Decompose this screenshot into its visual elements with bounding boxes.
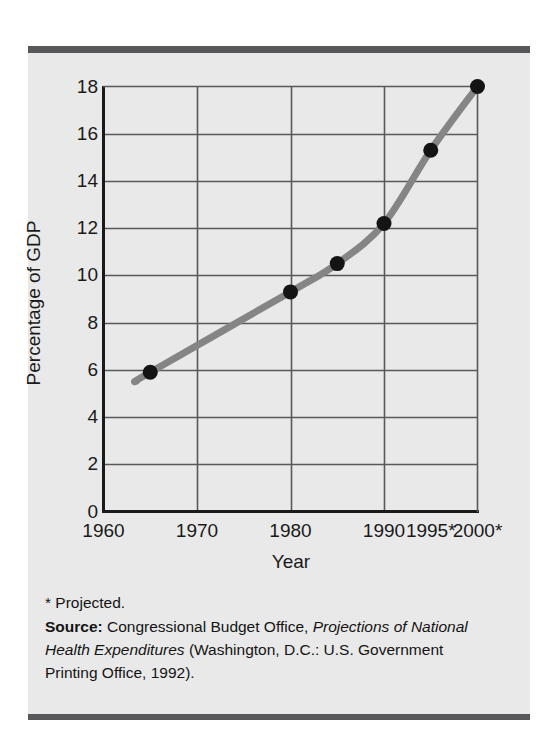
plot-area: 181614121086420 19601970198019901995*200… xyxy=(0,0,551,600)
y-tick-label-16: 16 xyxy=(54,124,98,143)
trend-line xyxy=(134,87,477,382)
y-tick-label-8: 8 xyxy=(54,313,98,332)
y-tick-label-12: 12 xyxy=(54,218,98,237)
data-series-group xyxy=(134,79,485,382)
caption-source-text-1: Congressional Budget Office, xyxy=(103,618,313,635)
x-tick-label-1980: 1980 xyxy=(269,521,311,540)
caption-source-label: Source: xyxy=(45,618,103,635)
data-point-1985 xyxy=(330,256,345,271)
x-tick-label-1995-projected: 1995* xyxy=(406,521,456,540)
data-point-1990 xyxy=(377,216,392,231)
caption-footnote: * Projected. xyxy=(45,592,475,615)
data-point-markers xyxy=(143,79,485,380)
bottom-rule-divider xyxy=(28,714,530,720)
data-point-1995 xyxy=(423,143,438,158)
x-tick-label-1990: 1990 xyxy=(363,521,405,540)
x-axis-tick-labels: 19601970198019901995*2000* xyxy=(0,521,551,551)
x-tick-label-2000-projected: 2000* xyxy=(453,521,503,540)
y-axis-title: Percentage of GDP xyxy=(23,203,45,403)
x-axis-title: Year xyxy=(103,551,479,573)
figure-container: 181614121086420 19601970198019901995*200… xyxy=(0,0,551,739)
y-tick-label-6: 6 xyxy=(54,360,98,379)
horizontal-gridlines xyxy=(104,135,478,465)
figure-caption: * Projected. Source: Congressional Budge… xyxy=(45,592,475,685)
x-tick-label-1960: 1960 xyxy=(82,521,124,540)
data-point-1980 xyxy=(283,284,298,299)
x-tick-label-1970: 1970 xyxy=(176,521,218,540)
y-tick-label-10: 10 xyxy=(54,265,98,284)
y-tick-label-14: 14 xyxy=(54,171,98,190)
y-tick-label-4: 4 xyxy=(54,407,98,426)
data-point-1965 xyxy=(143,365,158,380)
y-tick-label-0: 0 xyxy=(54,502,98,521)
caption-source: Source: Congressional Budget Office, Pro… xyxy=(45,616,475,685)
y-tick-label-2: 2 xyxy=(54,454,98,473)
y-tick-label-18: 18 xyxy=(54,77,98,96)
data-point-2000 xyxy=(470,79,485,94)
y-axis-tick-labels: 181614121086420 xyxy=(50,0,98,600)
